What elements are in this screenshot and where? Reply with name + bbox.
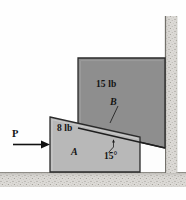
- figure-container: 15 lb B 8 lb A 15° P: [0, 0, 186, 200]
- wedge-a-weight-label: 8 lb: [57, 124, 72, 134]
- block-b-weight-label: 15 lb: [96, 80, 116, 90]
- wall-support: [165, 16, 177, 173]
- block-b-name-label: B: [110, 97, 117, 107]
- wedge-a-name-label: A: [71, 147, 78, 157]
- incline-angle-label: 15°: [104, 152, 117, 162]
- figure-canvas: [0, 0, 186, 200]
- force-p-label: P: [12, 129, 18, 140]
- ground-support: [0, 172, 186, 187]
